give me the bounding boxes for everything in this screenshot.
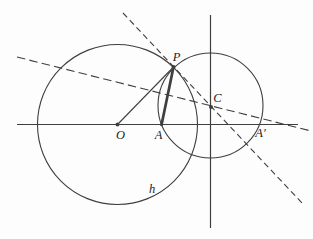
label-h: h xyxy=(149,182,155,196)
point-C-dot xyxy=(209,105,213,109)
label-O: O xyxy=(116,128,125,142)
figure-canvas: P C O A A′ h xyxy=(0,0,313,239)
tangent-dashed-line-through-P-and-C xyxy=(123,13,303,204)
inversion-diagram: P C O A A′ h xyxy=(0,0,313,239)
label-P: P xyxy=(172,50,181,64)
label-A: A xyxy=(154,128,163,142)
point-P-dot xyxy=(172,65,176,69)
point-O-dot xyxy=(116,123,120,127)
segment-O-to-P xyxy=(118,67,174,125)
label-C: C xyxy=(213,91,222,105)
point-A-dot xyxy=(160,123,163,126)
label-A-prime: A′ xyxy=(254,126,266,140)
